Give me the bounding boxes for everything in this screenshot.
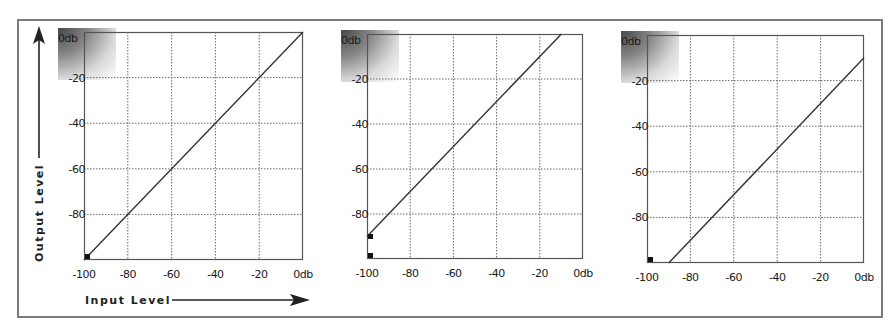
y-tick-label: -20 [618,76,648,87]
x-tick-label: -20 [242,269,276,280]
x-tick-label: -60 [717,272,751,283]
y-tick-label: -80 [338,209,368,220]
x-tick-label: -60 [155,269,189,280]
transfer-curve [84,32,303,260]
x-tick-label: 0db [286,269,320,280]
input-level-arrow-icon [172,292,312,308]
transfer-plot-1: 0db-20-40-60-80-100-80-60-40-200db [84,32,303,260]
plot-area [647,35,864,263]
x-axis-title: Input Level [85,294,171,307]
transfer-plot-3: 0db-20-40-60-80-100-80-60-40-200db [647,35,864,263]
x-tick-label: -80 [111,269,145,280]
level-marker [85,254,90,259]
transfer-curve [669,58,864,263]
y-tick-label: -40 [618,121,648,132]
transfer-curve [367,34,561,237]
level-marker [368,234,373,239]
transfer-plot-2: 0db-20-40-60-80-100-80-60-40-200db [367,34,583,259]
x-tick-label: 0db [847,272,881,283]
y-tick-label: -80 [55,209,85,220]
x-tick-label: -40 [480,268,514,279]
y-tick-label: -40 [338,119,368,130]
plot-area [367,34,583,259]
y-tick-label: 0db [621,36,651,47]
y-axis-title: Output Level [33,164,46,262]
x-tick-label: -40 [760,272,794,283]
y-tick-label: 0db [58,33,88,44]
level-marker [368,253,373,258]
y-tick-label: -60 [338,164,368,175]
x-tick-label: -60 [436,268,470,279]
x-tick-label: -100 [67,269,101,280]
y-tick-label: -40 [55,118,85,129]
level-marker [648,257,653,262]
x-tick-label: -100 [630,272,664,283]
output-level-arrow-icon [30,26,50,160]
x-tick-label: -80 [393,268,427,279]
x-tick-label: -40 [198,269,232,280]
y-tick-label: -20 [338,74,368,85]
x-tick-label: -80 [673,272,707,283]
x-tick-label: -100 [350,268,384,279]
y-tick-label: -60 [618,167,648,178]
x-tick-label: -20 [804,272,838,283]
y-tick-label: -80 [618,212,648,223]
y-tick-label: -60 [55,164,85,175]
x-tick-label: -20 [523,268,557,279]
plot-area [84,32,303,260]
y-tick-label: -20 [55,73,85,84]
y-tick-label: 0db [341,35,371,46]
x-tick-label: 0db [566,268,600,279]
